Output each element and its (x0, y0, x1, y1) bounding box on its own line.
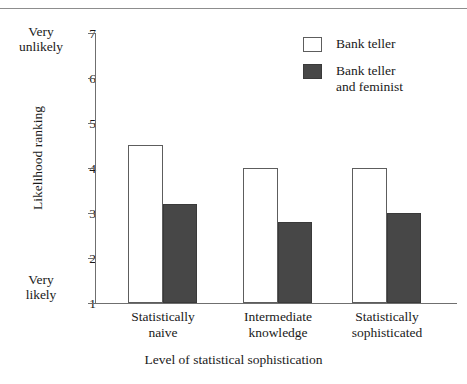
chart-legend: Bank teller Bank teller and feminist (303, 36, 403, 106)
bar-teller-feminist-naive (163, 204, 197, 303)
x-category-label-1-line1: Statistically (98, 309, 228, 325)
bar-teller-feminist-intermediate (278, 222, 312, 303)
bar-teller-sophisticated (352, 168, 387, 303)
x-category-label-1-line2: naive (98, 325, 228, 341)
y-tick-1: 1 (0, 297, 96, 310)
bar-teller-feminist-sophisticated (387, 213, 421, 303)
legend-swatch-open-icon (303, 37, 322, 52)
bar-chart-figure: Very unlikely Very likely Likelihood ran… (0, 0, 467, 384)
x-category-label-1: Statistically naive (98, 309, 228, 341)
bar-teller-naive (128, 145, 163, 303)
y-tick-3: 3 (0, 207, 96, 220)
legend-label-bank-teller-feminist: Bank teller and feminist (336, 63, 403, 95)
x-category-label-3-line1: Statistically (322, 309, 452, 325)
x-axis-title: Level of statistical sophistication (0, 352, 467, 368)
y-tick-2: 2 (0, 252, 96, 265)
legend-swatch-filled-icon (303, 64, 322, 79)
bar-teller-intermediate (243, 168, 278, 303)
y-anchor-high-line2: unlikely (6, 39, 76, 54)
x-category-label-3-line2: sophisticated (322, 325, 452, 341)
y-anchor-low-line1: Very (6, 272, 76, 287)
y-tick-7: 7 (0, 27, 96, 40)
y-tick-6: 6 (0, 72, 96, 85)
y-axis-line (95, 33, 96, 304)
top-divider-rule (0, 8, 467, 9)
y-tick-5: 5 (0, 117, 96, 130)
x-category-label-3: Statistically sophisticated (322, 309, 452, 341)
x-axis-line (95, 303, 457, 304)
y-tick-4: 4 (0, 162, 96, 175)
legend-entry-bank-teller-feminist: Bank teller and feminist (303, 63, 403, 95)
legend-label-bank-teller: Bank teller (336, 36, 396, 52)
legend-entry-bank-teller: Bank teller (303, 36, 403, 52)
